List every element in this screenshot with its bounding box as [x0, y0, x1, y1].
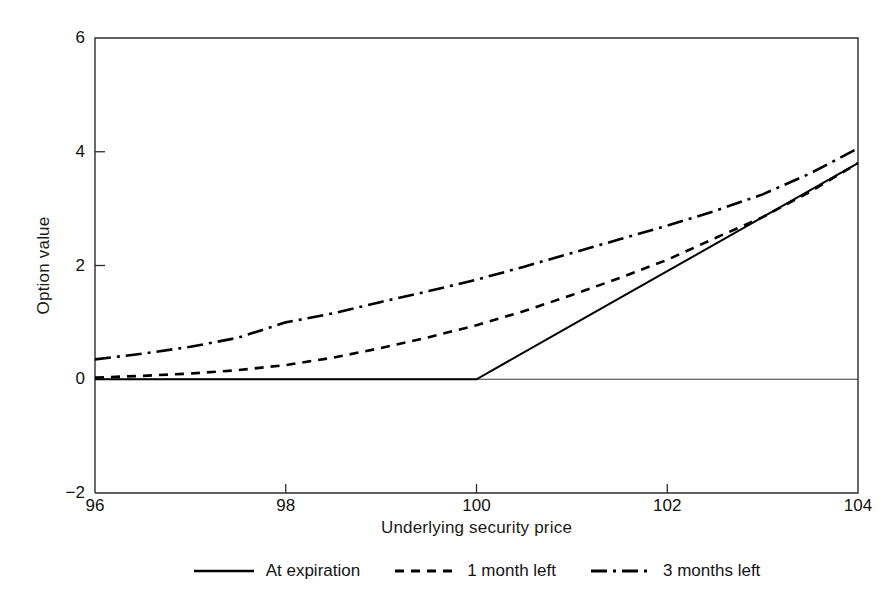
- x-tick-label: 98: [276, 496, 295, 516]
- y-tick-label: 4: [37, 142, 85, 162]
- chart-legend: At expiration1 month left3 months left: [95, 561, 858, 581]
- legend-label: 1 month left: [467, 561, 556, 581]
- option-value-chart: Option value Underlying security price 9…: [0, 0, 893, 606]
- x-axis-label: Underlying security price: [95, 518, 858, 538]
- y-tick-label: 0: [37, 369, 85, 389]
- y-tick-label: 6: [37, 28, 85, 48]
- legend-label: At expiration: [266, 561, 361, 581]
- legend-item: 3 months left: [590, 561, 760, 581]
- legend-item: 1 month left: [394, 561, 556, 581]
- plot-area: [0, 0, 893, 606]
- legend-item: At expiration: [193, 561, 361, 581]
- y-tick-label: 2: [37, 256, 85, 276]
- legend-line-icon: [590, 565, 652, 577]
- legend-label: 3 months left: [663, 561, 760, 581]
- legend-line-icon: [394, 565, 456, 577]
- x-tick-label: 104: [844, 496, 872, 516]
- x-tick-label: 102: [653, 496, 681, 516]
- x-tick-label: 96: [86, 496, 105, 516]
- chart-background: [0, 0, 893, 606]
- legend-line-icon: [193, 565, 255, 577]
- y-tick-label: −2: [37, 483, 85, 503]
- x-tick-label: 100: [462, 496, 490, 516]
